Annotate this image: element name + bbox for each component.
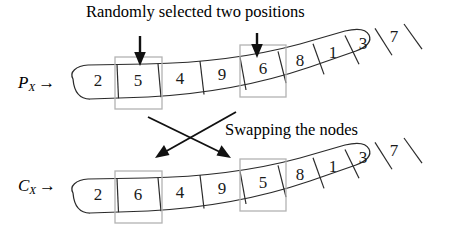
parent-gene-3: 9 bbox=[218, 65, 227, 84]
child-gene-2: 4 bbox=[176, 183, 185, 202]
parent-gene-5: 8 bbox=[296, 51, 305, 70]
parent-gene-7: 3 bbox=[359, 34, 368, 53]
parent-gene-2: 4 bbox=[176, 69, 185, 88]
down-arrow-1 bbox=[134, 36, 146, 66]
child-gene-3: 9 bbox=[218, 179, 227, 198]
figure-canvas: Randomly selected two positions Swapping… bbox=[0, 0, 474, 231]
child-gene-0: 2 bbox=[94, 185, 103, 204]
child-gene-4: 5 bbox=[259, 173, 268, 192]
child-gene-7: 3 bbox=[359, 148, 368, 167]
parent-gene-1: 5 bbox=[134, 71, 143, 90]
parent-gene-8: 7 bbox=[390, 27, 399, 46]
parent-divider-9 bbox=[404, 24, 422, 49]
child-chromosome: 2 6 4 9 5 8 1 3 7 bbox=[72, 138, 422, 213]
child-divider-9 bbox=[404, 138, 422, 163]
child-gene-1: 6 bbox=[134, 185, 143, 204]
child-gene-5: 8 bbox=[296, 165, 305, 184]
parent-gene-6: 1 bbox=[329, 43, 338, 62]
parent-chromosome: 2 5 4 9 6 8 1 3 7 bbox=[72, 24, 422, 99]
child-gene-6: 1 bbox=[329, 157, 338, 176]
chromosome-diagram: 2 5 4 9 6 8 1 3 7 bbox=[0, 0, 474, 231]
parent-gene-4: 6 bbox=[259, 59, 268, 78]
parent-gene-0: 2 bbox=[94, 71, 103, 90]
child-gene-8: 7 bbox=[390, 141, 399, 160]
